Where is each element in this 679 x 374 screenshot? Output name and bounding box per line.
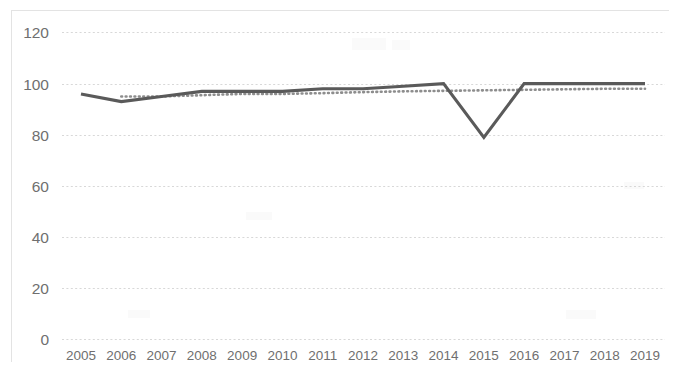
x-tick-label-2012: 2012 — [348, 348, 378, 363]
x-tick-label-2019: 2019 — [630, 348, 660, 363]
x-tick-label-2016: 2016 — [509, 348, 539, 363]
y-tick-label-120: 120 — [23, 24, 49, 41]
y-tick-label-20: 20 — [32, 280, 50, 297]
x-tick-label-2018: 2018 — [590, 348, 620, 363]
x-tick-label-2010: 2010 — [267, 348, 297, 363]
y-tick-label-100: 100 — [23, 76, 49, 93]
y-tick-label-60: 60 — [32, 178, 50, 195]
x-tick-label-2017: 2017 — [549, 348, 579, 363]
x-tick-label-2005: 2005 — [66, 348, 96, 363]
chart-canvas: 120 100 80 60 40 20 0 200520062007200820… — [0, 0, 679, 374]
x-tick-label-2007: 2007 — [147, 348, 177, 363]
x-tick-label-2013: 2013 — [388, 348, 418, 363]
y-tick-label-40: 40 — [32, 229, 50, 246]
x-tick-label-2009: 2009 — [227, 348, 257, 363]
y-tick-label-80: 80 — [32, 127, 50, 144]
x-tick-label-2015: 2015 — [469, 348, 499, 363]
x-tick-label-2006: 2006 — [106, 348, 136, 363]
x-tick-label-2011: 2011 — [308, 348, 337, 363]
line-chart: 120 100 80 60 40 20 0 200520062007200820… — [0, 0, 679, 374]
x-tick-label-2014: 2014 — [429, 348, 460, 363]
x-tick-label-2008: 2008 — [187, 348, 217, 363]
y-tick-label-0: 0 — [40, 331, 49, 348]
x-axis-tick-labels: 2005200620072008200920102011201220132014… — [66, 348, 660, 363]
